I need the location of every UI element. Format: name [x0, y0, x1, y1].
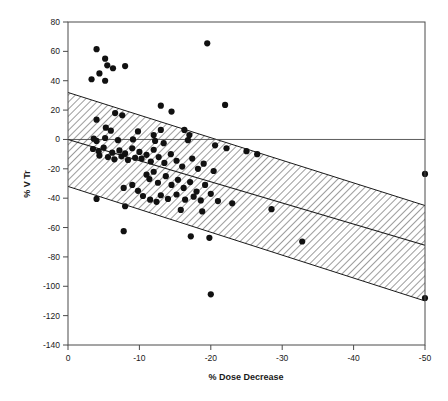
scatter-plot-figure: 0-10-20-30-40-50 806040200-20-40-60-80-1… [0, 0, 448, 401]
data-point [158, 192, 164, 198]
data-point [112, 110, 118, 116]
data-point [110, 65, 116, 71]
data-point [188, 233, 194, 239]
data-point [152, 138, 158, 144]
data-point [93, 138, 99, 144]
y-tick-label: 0 [55, 134, 60, 144]
y-tick-label: 60 [51, 46, 61, 56]
data-point [173, 191, 179, 197]
data-point [146, 176, 152, 182]
data-point [136, 149, 142, 155]
data-point [151, 132, 157, 138]
y-axis-title: % V Tr [22, 170, 32, 198]
data-point [147, 197, 153, 203]
x-tick-label: -30 [276, 353, 289, 363]
y-tick-label: -140 [43, 340, 60, 350]
data-point [243, 148, 249, 154]
x-tick-label: -40 [347, 353, 360, 363]
data-point [135, 128, 141, 134]
x-axis-ticks: 0-10-20-30-40-50 [66, 345, 432, 363]
x-axis-title: % Dose Decrease [208, 372, 283, 382]
data-point [187, 179, 193, 185]
x-tick-label: 0 [66, 353, 71, 363]
data-point [151, 169, 157, 175]
y-tick-label: 80 [51, 17, 61, 27]
data-point [122, 150, 128, 156]
data-point [140, 193, 146, 199]
data-point [185, 137, 191, 143]
data-point [156, 154, 162, 160]
y-tick-label: -80 [48, 252, 61, 262]
y-tick-label: 20 [51, 105, 61, 115]
data-point [168, 151, 174, 157]
plot-canvas: 0-10-20-30-40-50 806040200-20-40-60-80-1… [0, 0, 448, 401]
y-tick-label: -60 [48, 223, 61, 233]
data-point [168, 108, 174, 114]
data-point [102, 56, 108, 62]
data-point [88, 76, 94, 82]
y-tick-label: -100 [43, 281, 60, 291]
data-point [102, 78, 108, 84]
data-point [121, 228, 127, 234]
data-point [178, 207, 184, 213]
data-point [191, 194, 197, 200]
data-point [254, 151, 260, 157]
data-point [161, 160, 167, 166]
y-tick-label: 40 [51, 76, 61, 86]
data-point [206, 235, 212, 241]
data-point [96, 70, 102, 76]
data-point [158, 127, 164, 133]
data-point [151, 147, 157, 153]
data-point [204, 40, 210, 46]
data-point [129, 182, 135, 188]
data-point [116, 147, 122, 153]
data-point [109, 150, 115, 156]
data-point [268, 206, 274, 212]
data-point [158, 103, 164, 109]
data-point [132, 155, 138, 161]
data-point [143, 152, 149, 158]
data-point [202, 182, 208, 188]
data-point [138, 155, 144, 161]
data-point [108, 128, 114, 134]
x-tick-label: -20 [205, 353, 218, 363]
data-point [208, 191, 214, 197]
data-point [111, 156, 117, 162]
data-point [223, 145, 229, 151]
data-point [96, 153, 102, 159]
data-point [93, 117, 99, 123]
data-point [173, 158, 179, 164]
data-point [129, 145, 135, 151]
data-point [163, 173, 169, 179]
data-point [181, 185, 187, 191]
data-point [208, 291, 214, 297]
data-point [229, 200, 235, 206]
data-point [195, 166, 201, 172]
data-point [122, 203, 128, 209]
data-point [90, 146, 96, 152]
data-point [135, 188, 141, 194]
data-point [299, 238, 305, 244]
data-point [93, 46, 99, 52]
data-point [179, 164, 185, 170]
data-point [153, 199, 159, 205]
data-point [165, 196, 171, 202]
x-tick-label: -10 [133, 353, 146, 363]
data-point [175, 177, 181, 183]
band-fill [68, 92, 425, 300]
data-point [121, 185, 127, 191]
data-point [125, 157, 131, 163]
data-point [181, 127, 187, 133]
data-point [198, 197, 204, 203]
data-point [101, 144, 107, 150]
data-point [189, 155, 195, 161]
y-tick-label: -120 [43, 311, 60, 321]
x-tick-label: -50 [419, 353, 432, 363]
data-point [182, 197, 188, 203]
data-point [201, 161, 207, 167]
data-point [104, 62, 110, 68]
data-point [122, 63, 128, 69]
y-tick-label: -20 [48, 164, 61, 174]
data-point [115, 137, 121, 143]
y-axis-ticks: 806040200-20-40-60-80-100-120-140 [43, 17, 68, 350]
